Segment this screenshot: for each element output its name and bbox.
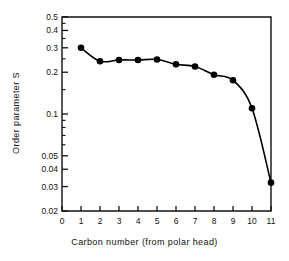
x-tick-label: 11 — [267, 216, 276, 226]
data-point — [135, 57, 142, 64]
x-tick-label: 10 — [247, 216, 256, 226]
data-point-markers — [78, 44, 275, 185]
x-tick-label: 0 — [60, 216, 65, 226]
y-tick-label: 0.4 — [14, 25, 58, 35]
data-point — [211, 71, 218, 78]
y-tick-label: 0.02 — [14, 206, 58, 216]
y-axis-title: Order parameter S — [11, 43, 21, 183]
x-tick-label: 1 — [79, 216, 84, 226]
chart-canvas — [0, 0, 289, 261]
y-tick-label: 0.5 — [14, 12, 58, 22]
x-tick-label: 4 — [136, 216, 141, 226]
data-point — [78, 44, 85, 51]
x-tick-label: 2 — [98, 216, 103, 226]
x-tick-label: 5 — [155, 216, 160, 226]
data-point — [230, 77, 237, 84]
x-tick-label: 8 — [212, 216, 217, 226]
data-curve — [81, 48, 271, 183]
data-point — [268, 179, 275, 186]
x-axis-title: Carbon number (from polar head) — [0, 237, 289, 247]
y-axis-tick-marks — [62, 17, 68, 211]
data-point — [97, 58, 104, 65]
x-tick-label: 9 — [231, 216, 236, 226]
data-point — [116, 57, 123, 64]
x-tick-label: 6 — [174, 216, 179, 226]
axes-frame — [62, 17, 271, 211]
data-point — [192, 63, 199, 70]
x-tick-label: 7 — [193, 216, 198, 226]
x-tick-label: 3 — [117, 216, 122, 226]
data-point — [154, 56, 161, 63]
x-axis-tick-marks — [62, 206, 271, 211]
y-tick-label: 0.03 — [14, 182, 58, 192]
chart-figure: 0.020.030.040.050.10.20.30.40.5 01234567… — [0, 0, 289, 261]
data-point — [249, 105, 256, 112]
data-point — [173, 61, 180, 68]
